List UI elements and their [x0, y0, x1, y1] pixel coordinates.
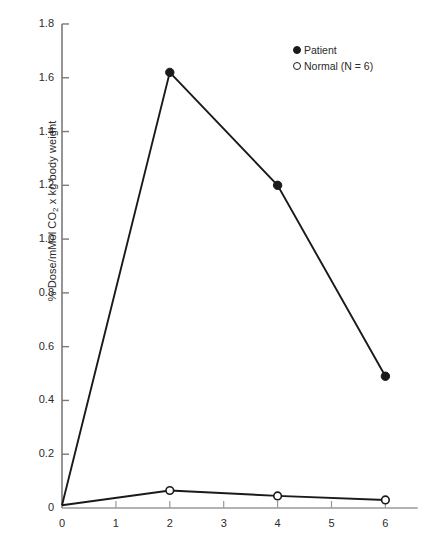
data-point-patient: [166, 68, 174, 76]
data-point-patient: [381, 372, 389, 380]
x-tick-label: 2: [160, 518, 180, 529]
x-tick-label: 1: [106, 518, 126, 529]
legend-item-normal: Normal (N = 6): [293, 58, 373, 74]
y-tick-label: 1.4: [26, 126, 54, 137]
data-point-normal: [166, 487, 174, 495]
y-axis-tick-labels: 00.20.40.60.81.01.21.41.61.8: [0, 0, 54, 540]
y-tick-label: 0: [26, 502, 54, 513]
y-tick-label: 1.2: [26, 179, 54, 190]
x-tick-label: 6: [375, 518, 395, 529]
x-tick-label: 5: [322, 518, 342, 529]
chart-figure: % Dose/mMol CO2 x kg body weight 00.20.4…: [0, 0, 446, 540]
x-tick-label: 3: [214, 518, 234, 529]
y-tick-label: 0.6: [26, 341, 54, 352]
legend-label-normal: Normal (N = 6): [304, 58, 373, 74]
y-tick-label: 1.6: [26, 72, 54, 83]
series-lines: [62, 72, 385, 505]
legend-item-patient: Patient: [293, 42, 373, 58]
y-tick-label: 1.8: [26, 18, 54, 29]
chart-legend: Patient Normal (N = 6): [293, 42, 373, 74]
open-circle-marker-icon: [293, 62, 301, 70]
y-tick-label: 0.2: [26, 448, 54, 459]
series-markers: [166, 68, 390, 504]
data-point-normal: [274, 492, 282, 500]
x-tick-label: 0: [52, 518, 72, 529]
x-tick-label: 4: [268, 518, 288, 529]
series-line-patient: [62, 72, 385, 505]
y-tick-label: 0.4: [26, 394, 54, 405]
plot-area: [0, 0, 446, 540]
data-point-patient: [273, 181, 281, 189]
axis-lines: [62, 24, 418, 508]
y-tick-label: 1.0: [26, 233, 54, 244]
tick-marks: [62, 24, 385, 508]
data-point-normal: [382, 496, 390, 504]
filled-circle-marker-icon: [293, 46, 301, 54]
legend-label-patient: Patient: [304, 42, 337, 58]
y-tick-label: 0.8: [26, 287, 54, 298]
